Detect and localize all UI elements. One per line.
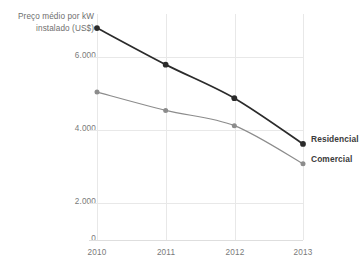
data-point-comercial-2011[interactable] xyxy=(163,108,168,113)
line-chart: Preço médio por kW instalado (US$) 6.000… xyxy=(0,0,364,273)
legend-label-comercial: Comercial xyxy=(311,154,352,164)
legend-label-residencial: Residencial xyxy=(311,134,359,144)
data-point-residencial-2013[interactable] xyxy=(300,141,306,147)
data-point-comercial-2012[interactable] xyxy=(232,123,237,128)
series-line-residencial xyxy=(97,28,303,144)
legend-item-residencial: Residencial xyxy=(311,134,359,144)
data-point-comercial-2013[interactable] xyxy=(301,161,306,166)
data-point-residencial-2012[interactable] xyxy=(231,95,237,101)
series-layer xyxy=(0,0,364,273)
data-point-comercial-2010[interactable] xyxy=(95,90,100,95)
data-point-residencial-2010[interactable] xyxy=(94,25,100,31)
legend-item-comercial: Comercial xyxy=(311,154,352,164)
series-line-comercial xyxy=(97,92,303,164)
data-point-residencial-2011[interactable] xyxy=(163,62,169,68)
